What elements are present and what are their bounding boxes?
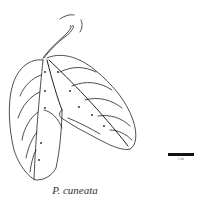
gland-dots <box>38 71 105 161</box>
species-caption: P. cuneata <box>0 184 150 196</box>
tendril-left <box>60 15 74 19</box>
scale-bar <box>168 153 194 156</box>
left-lobe-outline <box>9 60 62 180</box>
midrib-left <box>34 60 43 180</box>
tendril-right <box>80 20 82 32</box>
midrib-center <box>47 60 62 110</box>
leaf-illustration <box>0 0 210 203</box>
scale-bar-label: 1 cm <box>168 157 194 161</box>
